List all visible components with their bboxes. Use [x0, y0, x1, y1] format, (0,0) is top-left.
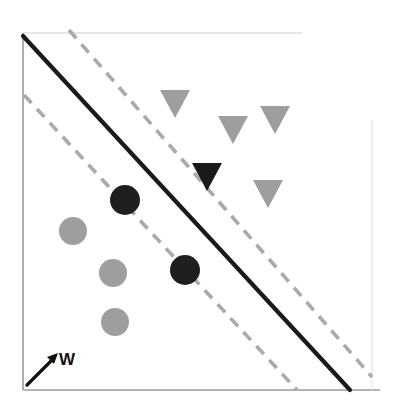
data-point-triangle [260, 106, 290, 134]
weight-vector-label: W [59, 350, 76, 369]
svm-plot-canvas: W [0, 0, 402, 417]
decision-boundary-line [23, 36, 350, 390]
data-point-triangle [218, 116, 248, 144]
data-point-circle [101, 308, 129, 336]
support-vector-circle [110, 185, 140, 215]
svm-figure: W [0, 0, 402, 417]
triangle-markers-group [160, 90, 290, 208]
plot-frame [23, 33, 380, 390]
data-point-circle [99, 259, 127, 287]
data-point-triangle [253, 180, 283, 208]
weight-vector-shaft [27, 358, 54, 385]
margin-lines [24, 30, 372, 390]
lower-margin-line [24, 95, 297, 390]
data-point-circle [59, 217, 87, 245]
support-vector-circle [170, 255, 200, 285]
data-point-triangle [160, 90, 190, 118]
weight-vector-arrow [27, 353, 58, 385]
circle-markers-group [59, 217, 129, 336]
